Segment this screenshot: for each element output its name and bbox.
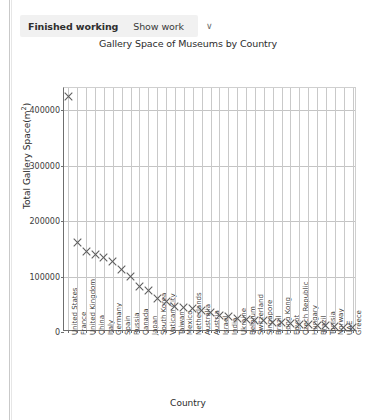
y-gridline [64,277,355,278]
data-point [330,322,339,331]
data-point [321,321,330,330]
x-gridline [95,88,96,330]
x-axis-label: Country [0,398,376,408]
data-point [117,265,126,274]
x-tick-mark [246,330,247,333]
x-gridline [353,88,354,330]
data-point [73,238,82,247]
x-tick-mark [139,330,140,333]
data-point [91,250,100,259]
x-tick-mark [166,330,167,333]
data-point [99,253,108,262]
x-tick-mark [326,330,327,333]
x-tick-mark [308,330,309,333]
data-point [64,92,73,101]
data-point [153,294,162,303]
data-point [242,315,251,324]
x-tick-mark [290,330,291,333]
data-point [144,286,153,295]
data-point [82,247,91,256]
data-point [224,312,233,321]
data-point [188,304,197,313]
x-gridline [299,88,300,330]
x-gridline [139,88,140,330]
y-tick-mark [61,110,64,111]
x-gridline [255,88,256,330]
x-tick-mark [219,330,220,333]
x-gridline [104,88,105,330]
x-tick-mark [77,330,78,333]
x-gridline [131,88,132,330]
x-gridline [219,88,220,330]
data-point [304,320,313,329]
data-point [126,272,135,281]
data-point [339,323,348,332]
y-tick-mark [61,332,64,333]
data-point [179,303,188,312]
x-gridline [317,88,318,330]
x-tick-mark [148,330,149,333]
y-gridline [64,110,355,111]
x-tick-mark [122,330,123,333]
x-tick-mark [202,330,203,333]
data-point [170,302,179,311]
x-gridline [113,88,114,330]
x-tick-mark [86,330,87,333]
x-tick-mark [104,330,105,333]
data-point [348,323,357,332]
x-tick-mark [255,330,256,333]
data-point [313,321,322,330]
y-tick-mark [61,221,64,222]
x-gridline [77,88,78,330]
x-gridline [273,88,274,330]
x-gridline [264,88,265,330]
x-gridline [290,88,291,330]
show-work-button[interactable]: Show work [133,21,184,32]
y-tick-label: 100000 [29,272,60,281]
x-tick-mark [299,330,300,333]
plot-area: 0100000200000300000400000United StatesFr… [63,87,356,331]
x-gridline [282,88,283,330]
x-gridline [326,88,327,330]
x-tick-mark [184,330,185,333]
data-point [286,319,295,328]
x-tick-mark [264,330,265,333]
x-tick-mark [193,330,194,333]
data-point [233,314,242,323]
x-gridline [166,88,167,330]
y-tick-label: 400000 [29,106,60,115]
data-point [215,311,224,320]
x-gridline [184,88,185,330]
data-point [268,318,277,327]
x-tick-mark [113,330,114,333]
x-gridline [246,88,247,330]
x-tick-mark [211,330,212,333]
x-gridline [122,88,123,330]
data-point [259,316,268,325]
x-tick-mark [228,330,229,333]
x-gridline [86,88,87,330]
x-tick-mark [317,330,318,333]
y-gridline [64,221,355,222]
y-tick-label: 200000 [29,217,60,226]
x-tick-mark [131,330,132,333]
x-tick-mark [273,330,274,333]
x-tick-mark [68,330,69,333]
data-point [295,320,304,329]
x-gridline [175,88,176,330]
finished-working-label: Finished working [28,21,118,32]
x-gridline [211,88,212,330]
data-point [135,282,144,291]
x-gridline [344,88,345,330]
y-axis-label: Total Gallery Space(m2) [20,103,32,209]
chart-title: Gallery Space of Museums by Country [0,38,376,49]
chevron-down-icon[interactable]: ∨ [206,21,213,31]
x-tick-mark [282,330,283,333]
data-point [277,318,286,327]
y-tick-label: 300000 [29,161,60,170]
y-gridline [64,166,355,167]
x-tick-mark [95,330,96,333]
x-gridline [335,88,336,330]
data-point [250,316,259,325]
data-point [108,257,117,266]
